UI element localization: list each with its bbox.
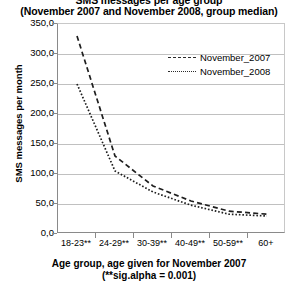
y-axis-tick-label: 250,0 (8, 78, 54, 88)
x-axis-tick-label: 50-59** (213, 238, 243, 249)
legend: November_2007November_2008 (168, 50, 290, 78)
series-line-november_2008 (77, 84, 267, 216)
y-axis-tick-label: 0,0 (8, 228, 54, 238)
x-axis-tick-label: 30-39** (137, 238, 167, 249)
chart-title-line-2: (November 2007 and November 2008, group … (0, 6, 298, 17)
x-axis-tick-label: 24-29** (99, 238, 129, 249)
y-axis-tick-label: 50,0 (8, 198, 54, 208)
x-axis-title-line-2: (**sig.alpha = 0.001) (0, 270, 298, 282)
x-axis-tick-label: 60+ (258, 238, 273, 249)
legend-item[interactable]: November_2008 (168, 64, 290, 78)
x-axis-tick-label: 40-49** (175, 238, 205, 249)
legend-line-sample-icon (168, 57, 196, 58)
legend-label: November_2008 (200, 66, 270, 77)
y-axis-tick-label: 150,0 (8, 138, 54, 148)
x-axis-title-line-1: Age group, age given for November 2007 (0, 258, 298, 270)
y-axis-tick-labels: 0,050,0100,0150,0200,0250,0300,0350,0 (0, 23, 54, 233)
legend-line-sample-icon (168, 71, 196, 72)
y-axis-tick-label: 200,0 (8, 108, 54, 118)
legend-label: November_2007 (200, 52, 270, 63)
x-axis-tick-label: 18-23** (61, 238, 91, 249)
legend-item[interactable]: November_2007 (168, 50, 290, 64)
y-axis-tick-label: 300,0 (8, 48, 54, 58)
x-axis-tick-labels: 18-23**24-29**30-39**40-49**50-59**60+ (57, 238, 285, 252)
y-axis-tick-label: 100,0 (8, 168, 54, 178)
y-axis-tick-label: 350,0 (8, 18, 54, 28)
chart-container: SMS messages per age group (November 200… (0, 0, 298, 286)
